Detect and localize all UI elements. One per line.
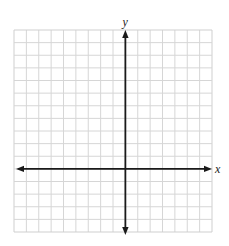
grid-lines [14,30,212,232]
axes [16,30,212,235]
coordinate-plane: x y [0,0,229,246]
y-axis-label: y [121,15,128,29]
x-axis-label: x [214,162,221,176]
y-axis-down-arrow-icon [122,227,128,235]
x-axis-right-arrow-icon [204,166,212,172]
x-axis-left-arrow-icon [16,166,24,172]
y-axis-up-arrow-icon [122,30,128,38]
